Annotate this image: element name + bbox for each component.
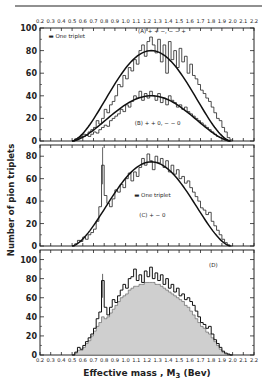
bottom-tick-labels: 0.20.30.40.50.60.70.80.91.01.11.21.31.41…	[36, 357, 258, 363]
histogram-primary	[72, 154, 233, 246]
bottom-x-tick-label: 1.3	[154, 357, 162, 363]
panels: 020406080100(A) + + −, − − +(B) + + 0, −…	[20, 24, 254, 360]
top-x-tick-label: 1.7	[196, 18, 204, 24]
top-x-tick-label: 0.9	[111, 18, 119, 24]
panel-annotation: ▬ One triplet	[49, 33, 86, 40]
y-tick-label: 80	[26, 152, 38, 161]
panel-annotation: ▬ One triplet	[134, 192, 171, 199]
panel-C: 020406080▬ One triplet(C) + − 0	[26, 145, 254, 251]
top-x-tick-label: 2.1	[239, 18, 247, 24]
top-x-tick-label: 0.4	[57, 18, 66, 24]
top-x-tick-label: 1.6	[186, 18, 194, 24]
bottom-x-tick-label: 1.1	[132, 357, 140, 363]
y-tick-label: 20	[26, 332, 38, 341]
bottom-x-tick-label: 0.4	[57, 357, 66, 363]
top-x-tick-label: 0.7	[89, 18, 97, 24]
bottom-x-tick-label: 2.2	[250, 357, 258, 363]
bottom-x-tick-label: 0.3	[47, 357, 55, 363]
bottom-x-tick-label: 1.2	[143, 357, 151, 363]
top-x-tick-label: 1.1	[132, 18, 140, 24]
y-tick-label: 40	[26, 313, 38, 322]
y-tick-label: 40	[26, 92, 38, 101]
panel-annotation: (B) + + 0, − − 0	[135, 120, 181, 126]
y-axis-label: Number of pion triplets	[6, 144, 16, 256]
bottom-x-tick-label: 1.6	[186, 357, 194, 363]
panel-A: 020406080100(A) + + −, − − +(B) + + 0, −…	[20, 24, 254, 146]
y-tick-label: 100	[20, 24, 37, 33]
top-x-tick-label: 1.2	[143, 18, 151, 24]
top-x-tick-label: 0.8	[100, 18, 108, 24]
bottom-x-tick-label: 2.1	[239, 357, 247, 363]
top-x-tick-label: 0.3	[47, 18, 55, 24]
fit-curve	[72, 96, 230, 141]
y-tick-label: 80	[26, 47, 38, 56]
bottom-x-tick-label: 1.8	[207, 357, 215, 363]
x-axis-label-tail: (Bev)	[180, 368, 210, 378]
x-axis-label: Effective mass , M3 (Bev)	[83, 368, 210, 380]
top-x-tick-label: 1.0	[121, 18, 129, 24]
bottom-x-tick-label: 0.6	[79, 357, 87, 363]
y-tick-label: 60	[26, 175, 38, 184]
y-tick-label: 0	[31, 137, 37, 146]
y-tick-label: 20	[26, 220, 38, 229]
top-tick-labels: 0.20.30.40.50.60.70.80.91.01.11.21.31.41…	[36, 18, 258, 24]
top-x-tick-label: 0.5	[68, 18, 76, 24]
y-tick-label: 80	[26, 275, 38, 284]
bottom-x-tick-label: 1.7	[196, 357, 204, 363]
bottom-x-tick-label: 0.7	[89, 357, 97, 363]
fit-curve	[72, 162, 230, 246]
top-x-tick-label: 2.2	[250, 18, 258, 24]
bottom-x-tick-label: 1.5	[175, 357, 183, 363]
top-x-tick-label: 1.8	[207, 18, 215, 24]
y-tick-label: 20	[26, 114, 38, 123]
y-tick-label: 100	[20, 256, 37, 265]
panel-D: 020406080100(D)	[20, 250, 254, 360]
top-x-tick-label: 1.9	[218, 18, 226, 24]
bottom-x-tick-label: 1.4	[164, 357, 173, 363]
y-tick-label: 60	[26, 294, 38, 303]
bottom-x-tick-label: 0.8	[100, 357, 108, 363]
y-tick-label: 60	[26, 69, 38, 78]
bottom-x-tick-label: 0.5	[68, 357, 76, 363]
chart-svg: 0.20.30.40.50.60.70.80.91.01.11.21.31.41…	[0, 0, 270, 390]
y-tick-label: 40	[26, 197, 38, 206]
bottom-x-tick-label: 0.2	[36, 357, 44, 363]
top-x-tick-label: 0.6	[79, 18, 87, 24]
bottom-x-tick-label: 1.9	[218, 357, 226, 363]
top-x-tick-label: 1.3	[154, 18, 162, 24]
top-x-tick-label: 0.2	[36, 18, 44, 24]
x-axis-label-main: Effective mass , M	[83, 368, 175, 378]
panel-annotation: (D)	[209, 262, 218, 268]
panel-annotation: (A) + + −, − − +	[138, 28, 186, 34]
y-tick-label: 0	[31, 242, 37, 251]
bottom-x-tick-label: 2.0	[228, 357, 236, 363]
panel-annotation: (C) + − 0	[139, 212, 166, 218]
bottom-x-tick-label: 1.0	[121, 357, 129, 363]
top-x-tick-label: 1.5	[175, 18, 183, 24]
top-x-tick-label: 2.0	[228, 18, 236, 24]
top-x-tick-label: 1.4	[164, 18, 173, 24]
bottom-x-tick-label: 0.9	[111, 357, 119, 363]
